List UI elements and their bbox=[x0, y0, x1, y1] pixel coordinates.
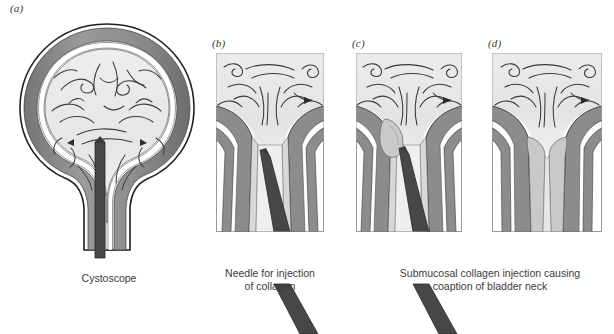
panel-b-caption: Needle for injection of collagen bbox=[190, 267, 350, 293]
panel-a-caption: Cystoscope bbox=[24, 272, 194, 285]
panel-a: (a) bbox=[14, 18, 200, 258]
panel-b-label: (b) bbox=[212, 37, 225, 49]
panel-d: (d) bbox=[492, 53, 602, 232]
panel-c-caption: Submucosal collagen injection causing co… bbox=[368, 267, 612, 293]
panel-b-illustration bbox=[216, 53, 324, 232]
panel-c: (c) bbox=[356, 53, 462, 232]
panel-a-illustration bbox=[14, 18, 200, 258]
panel-d-illustration bbox=[492, 53, 602, 232]
panel-c-illustration bbox=[356, 53, 462, 232]
panel-a-label: (a) bbox=[10, 2, 23, 14]
panel-b: (b) bbox=[216, 53, 324, 232]
panel-c-label: (c) bbox=[352, 37, 365, 49]
cystoscope bbox=[95, 136, 105, 258]
bladder-lumen bbox=[45, 49, 169, 223]
panel-d-label: (d) bbox=[488, 37, 501, 49]
